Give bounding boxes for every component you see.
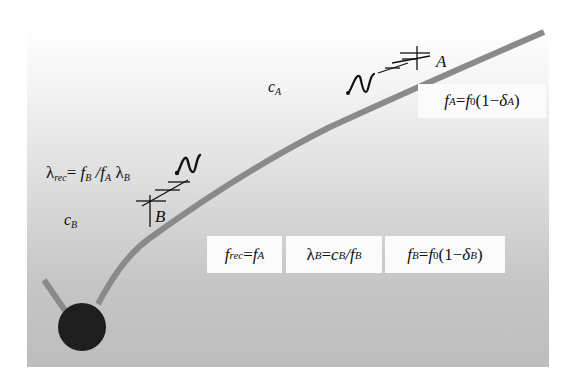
wavefront-ticks-a: [378, 46, 430, 73]
speed-label-c-b: cB: [64, 212, 77, 230]
wave-icon-a: [346, 74, 374, 95]
equation-box-f-a: fA = f0(1−δA): [418, 84, 546, 118]
equation-box-lambda-b: λB =cB /fB: [286, 236, 382, 273]
equation-box-f-rec: frec = fA: [207, 236, 282, 273]
speed-label-c-a: cA: [268, 79, 281, 97]
equation-box-f-b: fB = f0(1−δB): [385, 236, 505, 273]
wave-icon-b: [175, 155, 200, 175]
source-ball: [58, 303, 106, 351]
point-label-b: B: [155, 208, 165, 225]
point-label-a: A: [436, 53, 446, 70]
lambda-rec-equation: λrec= fB /fA λB: [46, 164, 130, 183]
diagram-artwork: [0, 0, 575, 387]
left-stub-line: [44, 280, 66, 312]
